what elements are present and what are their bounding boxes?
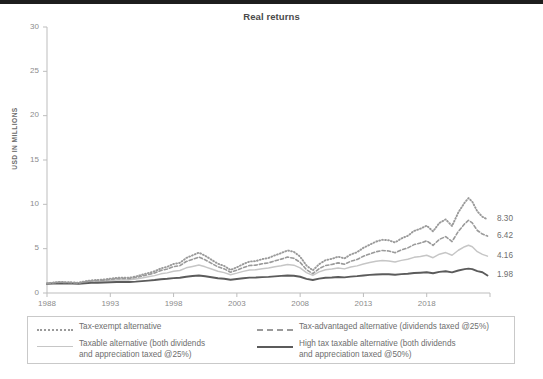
- legend-item-2[interactable]: Taxable alternative (both dividends and …: [37, 339, 205, 360]
- chart-legend: Tax-exempt alternativeTaxable alternativ…: [27, 316, 515, 364]
- legend-swatch-solid-icon: [257, 342, 293, 353]
- legend-item-3[interactable]: High tax taxable alternative (both divid…: [257, 339, 489, 360]
- legend-swatch-dotted-icon: [37, 325, 73, 336]
- legend-label-0: Tax-exempt alternative: [79, 322, 161, 333]
- legend-swatch-dashed-icon: [257, 325, 293, 336]
- series-line-0: [47, 198, 487, 283]
- legend-label-3: High tax taxable alternative (both divid…: [299, 339, 456, 360]
- end-label-2: 4.16: [497, 251, 513, 260]
- legend-column-right: Tax-advantaged alternative (dividends ta…: [257, 322, 489, 363]
- series-line-1: [47, 220, 487, 283]
- legend-label-2: Taxable alternative (both dividends and …: [79, 339, 205, 360]
- chart-lines-svg: [0, 0, 543, 310]
- end-label-1: 6.42: [497, 231, 513, 240]
- end-label-0: 8.30: [497, 214, 513, 223]
- legend-label-1: Tax-advantaged alternative (dividends ta…: [299, 322, 489, 333]
- legend-item-0[interactable]: Tax-exempt alternative: [37, 322, 205, 336]
- legend-column-left: Tax-exempt alternativeTaxable alternativ…: [37, 322, 205, 363]
- chart-plot-area: USD IN MILLIONS 051015202530 19881993199…: [0, 0, 543, 310]
- end-label-3: 1.98: [497, 270, 513, 279]
- series-line-3: [47, 269, 487, 284]
- legend-item-1[interactable]: Tax-advantaged alternative (dividends ta…: [257, 322, 489, 336]
- legend-swatch-solid-icon: [37, 342, 73, 353]
